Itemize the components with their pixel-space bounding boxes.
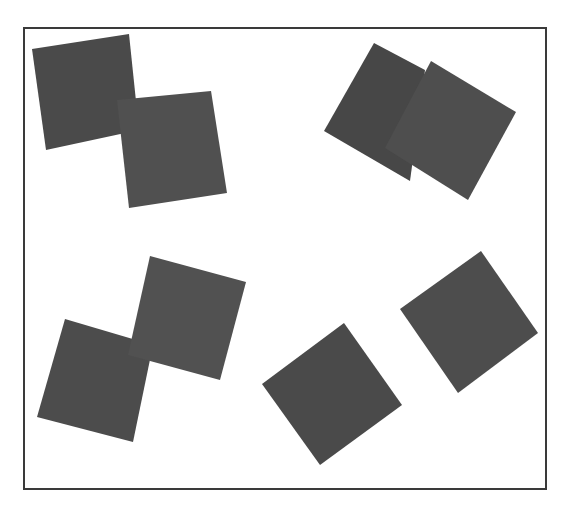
square-7 (262, 323, 402, 465)
squares-group (32, 34, 538, 465)
square-2 (117, 91, 227, 208)
square-8 (400, 251, 538, 393)
diagram-canvas (0, 0, 572, 514)
